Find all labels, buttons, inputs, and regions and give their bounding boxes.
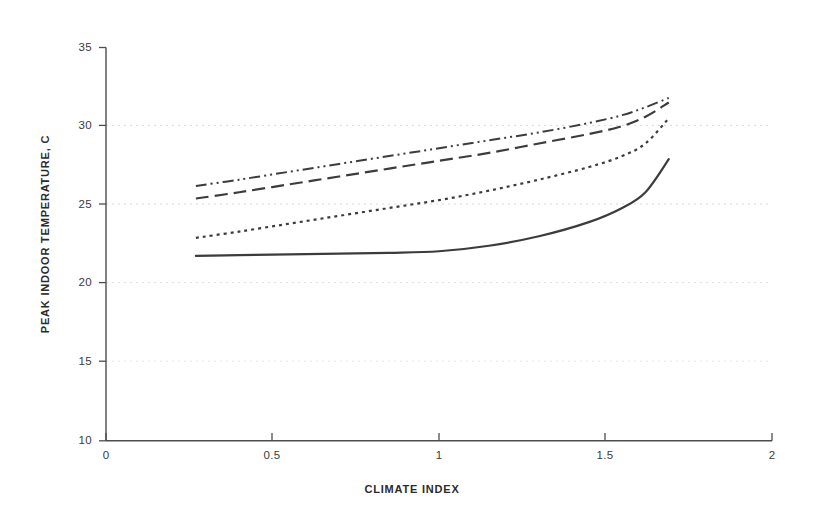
x-tick-label-1-5: 1.5	[585, 449, 625, 461]
x-tick-label-1: 1	[419, 449, 459, 461]
y-axis-title: PEAK INDOOR TEMPERATURE, C	[39, 69, 51, 399]
series-line-dashed	[196, 103, 669, 199]
y-axis-ticks	[99, 48, 106, 441]
plot-area	[0, 0, 824, 519]
chart-figure: 35 30 25 20 15 10 0 0.5 1 1.5 2 CLIMATE …	[0, 0, 824, 519]
y-tick-label-25: 25	[58, 198, 92, 210]
data-series-group	[196, 98, 669, 256]
x-axis-title: CLIMATE INDEX	[0, 483, 824, 495]
y-tick-label-35: 35	[58, 41, 92, 53]
x-tick-label-0: 0	[86, 449, 126, 461]
series-line-solid	[196, 159, 669, 256]
x-tick-label-0-5: 0.5	[252, 449, 292, 461]
y-tick-label-10: 10	[58, 434, 92, 446]
x-tick-label-2: 2	[752, 449, 792, 461]
series-line-dash-dot-dot	[196, 98, 669, 186]
axis-lines	[106, 48, 772, 441]
y-tick-label-15: 15	[58, 355, 92, 367]
y-tick-label-30: 30	[58, 119, 92, 131]
gridlines	[106, 125, 772, 361]
y-tick-label-20: 20	[58, 276, 92, 288]
x-axis-ticks	[106, 433, 772, 441]
